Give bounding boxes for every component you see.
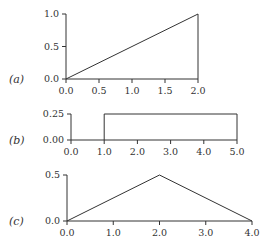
xtick-c-1: 1.0 [106, 227, 121, 238]
xtick-c-0: 0.0 [59, 227, 74, 238]
xtick-c-4: 4.0 [244, 227, 259, 238]
ytick-b-0: 0.00 [43, 134, 64, 145]
xtick-b-4: 4.0 [196, 146, 211, 157]
ytick-a-0: 0.0 [44, 73, 59, 84]
panel-label-a: (a) [9, 73, 24, 86]
xtick-a-1: 0.5 [91, 85, 106, 96]
curve-b [104, 114, 237, 140]
ytick-a-2: 1.0 [44, 8, 59, 19]
ytick-b-1: 0.25 [43, 108, 64, 119]
panel-a: (a) 0.0 0.5 1.0 0.0 0.5 1.0 1.5 2.0 [9, 8, 206, 96]
ytick-c-0: 0.0 [45, 215, 60, 226]
xtick-b-3: 3.0 [163, 146, 178, 157]
figure: (a) 0.0 0.5 1.0 0.0 0.5 1.0 1.5 2.0 (b) … [0, 0, 264, 245]
panel-label-c: (c) [9, 215, 24, 228]
xtick-a-4: 2.0 [190, 85, 205, 96]
xtick-a-3: 1.5 [157, 85, 172, 96]
curve-a [66, 14, 198, 79]
ytick-a-1: 0.5 [44, 41, 59, 52]
xtick-b-1: 1.0 [97, 146, 112, 157]
xtick-a-2: 1.0 [124, 85, 139, 96]
curve-c [67, 175, 252, 221]
xtick-b-0: 0.0 [63, 146, 78, 157]
xtick-c-2: 2.0 [152, 227, 167, 238]
xtick-b-2: 2.0 [130, 146, 145, 157]
panel-b: (b) 0.00 0.25 0.0 1.0 2.0 3.0 4.0 5.0 [9, 108, 245, 157]
ytick-c-1: 0.5 [45, 169, 60, 180]
panel-c: (c) 0.0 0.5 0.0 1.0 2.0 3.0 4.0 [9, 169, 260, 238]
xtick-b-5: 5.0 [229, 146, 244, 157]
xtick-c-3: 3.0 [198, 227, 213, 238]
xtick-a-0: 0.0 [58, 85, 73, 96]
panel-label-b: (b) [9, 134, 25, 147]
